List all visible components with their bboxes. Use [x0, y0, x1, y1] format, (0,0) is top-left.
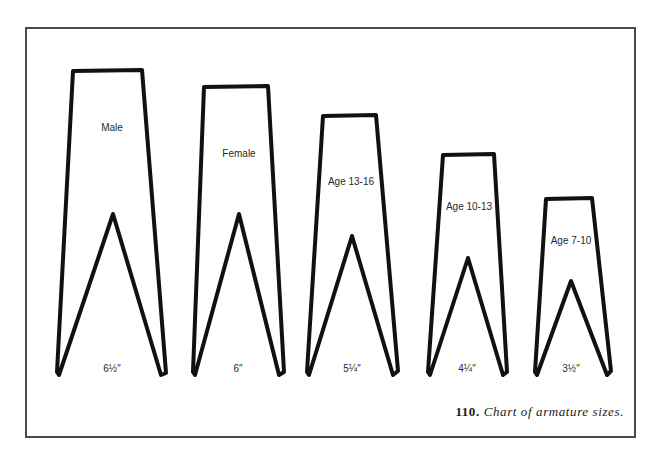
armature-age-10-13-size: 4¼″: [458, 363, 475, 374]
armature-age-7-10-size: 3½″: [562, 363, 579, 374]
armature-female-label: Female: [222, 148, 255, 159]
armature-diagram: [0, 0, 658, 458]
armature-age-10-13-label: Age 10-13: [446, 201, 492, 212]
armature-age-7-10-label: Age 7-10: [551, 235, 592, 246]
figure-caption-text: Chart of armature sizes.: [484, 404, 624, 419]
armature-age-13-16-label: Age 13-16: [328, 176, 374, 187]
armature-age-13-16-shape: [307, 115, 398, 375]
figure-caption: 110. Chart of armature sizes.: [455, 404, 624, 420]
figure-number: 110.: [455, 404, 479, 419]
armature-female-shape: [193, 86, 284, 375]
armature-age-10-13-shape: [428, 154, 507, 375]
armature-female-size: 6″: [233, 363, 242, 374]
armature-male-label: Male: [101, 122, 123, 133]
armature-male-shape: [57, 70, 166, 375]
armature-male-size: 6½″: [103, 363, 120, 374]
armature-age-7-10-shape: [535, 198, 611, 375]
armature-age-13-16-size: 5¼″: [343, 363, 360, 374]
